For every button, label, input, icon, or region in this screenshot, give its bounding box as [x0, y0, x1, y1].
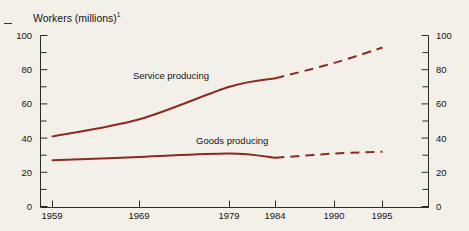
chart-figure: Workers (millions)1 100 80 60 40 20 0 10…: [0, 0, 469, 231]
series-line-goods-producing-actual: [53, 153, 276, 160]
series-line-service-producing-actual: [53, 78, 276, 136]
plot-area: [0, 0, 469, 231]
y-axis-right-minor-ticks: [423, 53, 429, 190]
series-line-goods-producing-projected: [276, 152, 383, 158]
series-line-service-producing-projected: [276, 47, 383, 78]
y-axis-left-minor-ticks: [41, 53, 47, 190]
x-axis-ticks: [53, 201, 383, 208]
